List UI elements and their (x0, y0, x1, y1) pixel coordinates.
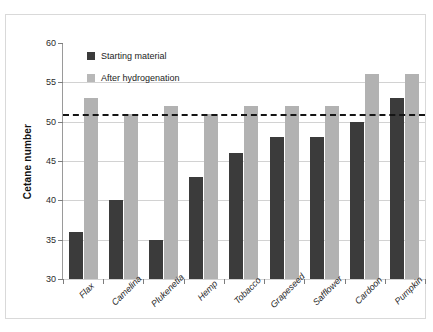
x-axis-category-label: Hemp (195, 279, 219, 303)
y-axis-tick-label: 45 (46, 156, 56, 166)
bar (189, 177, 203, 279)
chart-figure: Cetane number 60555045403530 Starting ma… (0, 0, 433, 332)
plot-area: 60555045403530 Starting material After h… (62, 43, 425, 280)
x-axis-tick (103, 279, 104, 284)
bar (325, 106, 339, 279)
x-axis-tick (345, 279, 346, 284)
y-axis-tick-label: 60 (46, 38, 56, 48)
bar-group: Pumpkin (385, 43, 425, 279)
bar (164, 106, 178, 279)
bar (204, 114, 218, 279)
y-axis-title: Cetane number (22, 43, 36, 280)
bar (124, 114, 138, 279)
bar-group: Hemp (184, 43, 224, 279)
bar (350, 122, 364, 279)
x-axis-tick (184, 279, 185, 284)
y-axis-tick-label: 50 (46, 117, 56, 127)
legend-swatch-icon (87, 52, 95, 60)
x-axis-tick (264, 279, 265, 284)
reference-line (63, 114, 425, 116)
x-axis-tick (304, 279, 305, 284)
bar (285, 106, 299, 279)
y-axis-tick-label: 35 (46, 235, 56, 245)
bar-pair (385, 43, 425, 279)
bar-group: Grapeseed (264, 43, 304, 279)
y-axis-tick-label: 30 (46, 274, 56, 284)
bar (229, 153, 243, 279)
y-axis-tick-label: 55 (46, 77, 56, 87)
bar (310, 137, 324, 279)
bar-pair (184, 43, 224, 279)
chart-legend: Starting material After hydrogenation (87, 51, 180, 95)
top-caption (4, 0, 64, 6)
y-axis-tick-label: 40 (46, 195, 56, 205)
bar-pair (224, 43, 264, 279)
x-axis-tick (224, 279, 225, 284)
bar-pair (345, 43, 385, 279)
legend-label: Starting material (101, 51, 167, 61)
bar (405, 74, 419, 279)
legend-label: After hydrogenation (101, 73, 180, 83)
bar-pair (304, 43, 344, 279)
bar (390, 98, 404, 279)
bar-group: Cardoon (345, 43, 385, 279)
x-axis-tick (63, 279, 64, 284)
legend-entry: Starting material (87, 51, 180, 61)
x-axis-tick (425, 279, 426, 284)
legend-swatch-icon (87, 74, 95, 82)
legend-entry: After hydrogenation (87, 73, 180, 83)
chart-frame: Cetane number 60555045403530 Starting ma… (5, 14, 426, 319)
x-axis-tick (385, 279, 386, 284)
bar-group: Tobacco (224, 43, 264, 279)
bar-group: Safflower (304, 43, 344, 279)
bar-pair (264, 43, 304, 279)
bar (270, 137, 284, 279)
bar (69, 232, 83, 279)
x-axis-tick (143, 279, 144, 284)
bar (149, 240, 163, 279)
bar (109, 200, 123, 279)
bar (84, 98, 98, 279)
x-axis-category-label: Flax (77, 281, 96, 300)
bar (365, 74, 379, 279)
bar (244, 106, 258, 279)
